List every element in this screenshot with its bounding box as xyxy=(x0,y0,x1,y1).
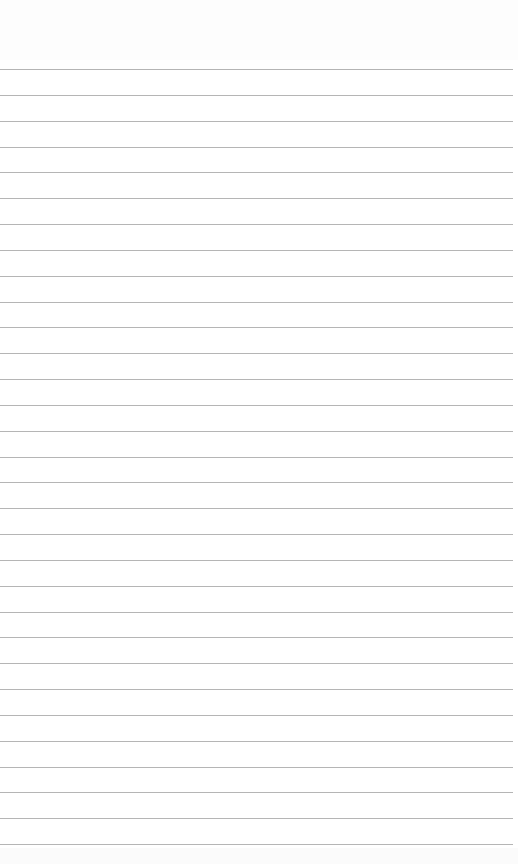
ruled-line xyxy=(0,741,513,742)
ruled-line xyxy=(0,250,513,251)
ruled-line xyxy=(0,172,513,173)
ruled-line xyxy=(0,767,513,768)
ruled-line xyxy=(0,198,513,199)
ruled-line xyxy=(0,818,513,819)
ruled-line xyxy=(0,147,513,148)
ruled-line xyxy=(0,534,513,535)
ruled-line xyxy=(0,121,513,122)
ruled-line xyxy=(0,637,513,638)
ruled-line xyxy=(0,431,513,432)
ruled-line xyxy=(0,663,513,664)
ruled-line xyxy=(0,405,513,406)
ruled-line xyxy=(0,792,513,793)
ruled-line xyxy=(0,353,513,354)
ruled-line xyxy=(0,844,513,845)
ruled-line xyxy=(0,482,513,483)
ruled-line xyxy=(0,224,513,225)
ruled-line xyxy=(0,689,513,690)
ruled-line xyxy=(0,560,513,561)
ruled-line xyxy=(0,715,513,716)
ruled-line xyxy=(0,302,513,303)
ruled-line xyxy=(0,586,513,587)
ruled-line xyxy=(0,327,513,328)
ruled-line xyxy=(0,69,513,70)
ruled-line xyxy=(0,457,513,458)
ruled-line xyxy=(0,508,513,509)
ruled-line xyxy=(0,276,513,277)
ruled-line xyxy=(0,379,513,380)
bottom-margin xyxy=(0,848,518,864)
top-margin xyxy=(0,0,518,60)
notepad-page xyxy=(0,0,518,864)
ruled-line xyxy=(0,95,513,96)
ruled-line xyxy=(0,612,513,613)
